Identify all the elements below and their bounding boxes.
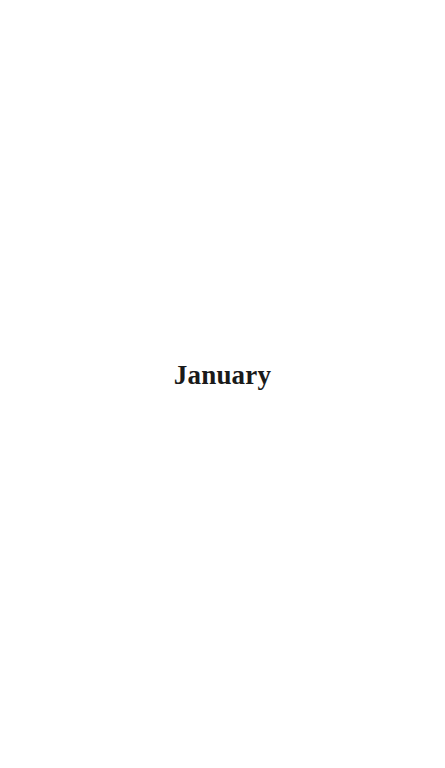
page: January	[0, 0, 445, 768]
page-title: January	[0, 358, 445, 392]
